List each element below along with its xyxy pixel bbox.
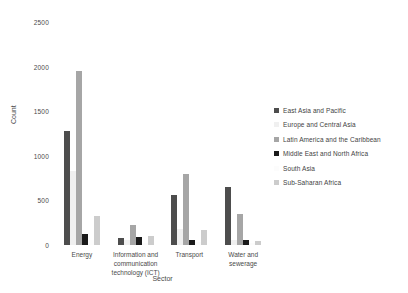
legend-swatch-icon [274, 122, 279, 127]
legend-swatch-icon [274, 151, 279, 156]
legend-item: East Asia and Pacific [274, 103, 404, 118]
legend-item: Europe and Central Asia [274, 118, 404, 133]
x-axis-title: Sector [55, 275, 270, 282]
bar [148, 236, 154, 245]
y-tick-label: 1500 [34, 108, 49, 115]
bar [255, 241, 261, 245]
y-tick-label: 2500 [34, 19, 49, 26]
x-tick-label: Energy [54, 250, 110, 259]
bar-group: Information and communication technology… [109, 22, 163, 245]
legend-label: Sub-Saharan Africa [283, 179, 341, 186]
bar-chart-figure: Count 05001000150020002500 EnergyInforma… [0, 0, 408, 293]
bar [76, 71, 82, 245]
y-tick-label: 2000 [34, 63, 49, 70]
x-tick-label: Transport [161, 250, 217, 259]
y-axis-title: Count [10, 105, 17, 124]
legend-item: South Asia [274, 161, 404, 176]
bar-stack [225, 22, 261, 245]
chart-legend: East Asia and PacificEurope and Central … [274, 103, 404, 190]
plot-area: 05001000150020002500 EnergyInformation a… [55, 22, 270, 245]
legend-label: East Asia and Pacific [283, 107, 346, 114]
y-tick-label: 500 [38, 197, 49, 204]
bar [201, 230, 207, 245]
legend-swatch-icon [274, 180, 279, 185]
legend-label: Middle East and North Africa [283, 150, 368, 157]
x-tick-label: Information and communication technology… [108, 250, 164, 277]
bar-group: Transport [163, 22, 217, 245]
bar [225, 187, 231, 245]
legend-item: Middle East and North Africa [274, 147, 404, 162]
bar [183, 174, 189, 245]
legend-swatch-icon [274, 108, 279, 113]
legend-label: Latin America and the Caribbean [283, 136, 381, 143]
legend-swatch-icon [274, 137, 279, 142]
bar-stack [118, 22, 154, 245]
legend-item: Sub-Saharan Africa [274, 176, 404, 191]
bar-group: Energy [55, 22, 109, 245]
bar-stack [64, 22, 100, 245]
legend-label: South Asia [283, 165, 315, 172]
legend-label: Europe and Central Asia [283, 121, 356, 128]
bar-stack [171, 22, 207, 245]
x-tick-label: Water and sewerage [215, 250, 271, 268]
y-tick-label: 1000 [34, 152, 49, 159]
bar-groups: EnergyInformation and communication tech… [55, 22, 270, 245]
bar [94, 216, 100, 245]
legend-swatch-icon [274, 166, 279, 171]
y-tick-label: 0 [45, 242, 49, 249]
legend-item: Latin America and the Caribbean [274, 132, 404, 147]
bar-group: Water and sewerage [216, 22, 270, 245]
